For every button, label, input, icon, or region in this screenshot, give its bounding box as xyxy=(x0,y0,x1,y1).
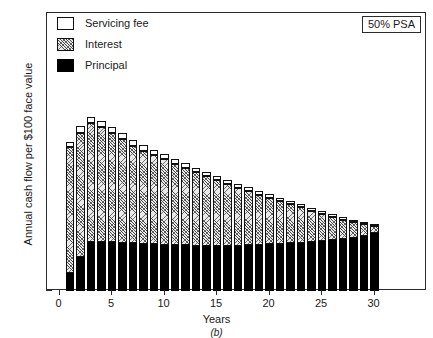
bar-segment-principal xyxy=(307,242,315,291)
bar-segment-interest xyxy=(244,191,252,245)
bar-segment-servicing-fee xyxy=(223,180,231,184)
bar-segment-servicing-fee xyxy=(360,222,368,224)
bar-segment-interest xyxy=(171,164,179,245)
bar-segment-interest xyxy=(318,214,326,242)
bar-segment-servicing-fee xyxy=(265,194,273,198)
x-tick-mark xyxy=(374,290,375,295)
bar-segment-interest xyxy=(213,180,221,246)
bar-segment-servicing-fee xyxy=(339,217,347,220)
bar-segment-servicing-fee xyxy=(297,204,305,207)
bar-segment-principal xyxy=(192,246,200,291)
bar-segment-interest xyxy=(139,151,147,244)
psa-annotation: 50% PSA xyxy=(362,16,421,33)
bar-segment-interest xyxy=(76,133,84,257)
bar-segment-servicing-fee xyxy=(192,168,200,173)
bar-segment-servicing-fee xyxy=(129,140,137,146)
x-tick-label: 30 xyxy=(361,297,387,309)
bar-segment-interest xyxy=(192,172,200,245)
bar-segment-servicing-fee xyxy=(276,198,284,201)
bar xyxy=(297,13,305,291)
bar-segment-principal xyxy=(108,242,116,291)
bar-segment-servicing-fee xyxy=(160,154,168,159)
bar-segment-servicing-fee xyxy=(286,201,294,204)
bar-segment-servicing-fee xyxy=(213,176,221,180)
x-tick-mark xyxy=(321,290,322,295)
bar-segment-interest xyxy=(276,201,284,244)
bar-segment-interest xyxy=(87,123,95,243)
bar-segment-interest xyxy=(328,217,336,241)
x-tick-label: 5 xyxy=(98,297,124,309)
bar-segment-principal xyxy=(265,244,273,291)
bar-segment-principal xyxy=(202,246,210,291)
swatch-empty-icon xyxy=(57,17,74,30)
bar-segment-principal xyxy=(76,257,84,291)
bar xyxy=(318,13,326,291)
bar-segment-interest xyxy=(118,139,126,243)
bar-segment-principal xyxy=(160,245,168,291)
bar-segment-principal xyxy=(234,246,242,291)
bar xyxy=(223,13,231,291)
bar xyxy=(360,13,368,291)
bar xyxy=(286,13,294,291)
bar-segment-servicing-fee xyxy=(108,127,116,133)
bar-segment-principal xyxy=(318,241,326,291)
bar xyxy=(307,13,315,291)
bar-segment-interest xyxy=(234,188,242,246)
bar xyxy=(339,13,347,291)
bar-segment-principal xyxy=(223,246,231,291)
bar xyxy=(276,13,284,291)
x-tick-label: 0 xyxy=(46,297,72,309)
x-axis-label: Years xyxy=(0,313,433,325)
bar-segment-servicing-fee xyxy=(66,142,74,148)
bar xyxy=(244,13,252,291)
bar-segment-interest xyxy=(297,207,305,242)
bar-segment-principal xyxy=(349,238,357,291)
y-axis-label: Annual cash flow per $100 face value xyxy=(22,34,34,274)
panel-label: (b) xyxy=(0,327,433,338)
x-tick-label: 15 xyxy=(203,297,229,309)
bar-segment-interest xyxy=(223,184,231,246)
swatch-solid-icon xyxy=(57,59,74,72)
x-tick-label: 10 xyxy=(151,297,177,309)
bar-segment-interest xyxy=(360,224,368,235)
x-tick-mark xyxy=(164,290,165,295)
swatch-hatched-icon xyxy=(57,38,74,51)
legend-item-servicing-fee: Servicing fee xyxy=(57,14,207,32)
bar-segment-interest xyxy=(129,146,137,243)
bar xyxy=(255,13,263,291)
bar-segment-principal xyxy=(118,243,126,291)
bar-segment-interest xyxy=(370,226,378,233)
figure: Annual cash flow per $100 face value 051… xyxy=(0,0,433,338)
bar-segment-interest xyxy=(255,195,263,245)
bar-segment-principal xyxy=(171,245,179,291)
bar-segment-servicing-fee xyxy=(307,208,315,211)
bar-segment-principal xyxy=(150,244,158,291)
bar-segment-interest xyxy=(265,198,273,244)
bar xyxy=(265,13,273,291)
bar-segment-servicing-fee xyxy=(76,126,84,132)
bar-segment-interest xyxy=(307,211,315,242)
legend-item-interest: Interest xyxy=(57,35,207,53)
bar-segment-principal xyxy=(181,245,189,291)
bar-segment-servicing-fee xyxy=(139,145,147,151)
bar-segment-servicing-fee xyxy=(150,150,158,155)
x-tick-mark xyxy=(216,290,217,295)
bar-segment-servicing-fee xyxy=(328,214,336,217)
bar-segment-interest xyxy=(181,168,189,245)
bar-segment-servicing-fee xyxy=(349,220,357,223)
bar-segment-interest xyxy=(160,159,168,244)
bar-segment-interest xyxy=(97,127,105,242)
bar-segment-interest xyxy=(339,220,347,240)
legend-label: Principal xyxy=(85,59,127,71)
bar-segment-servicing-fee xyxy=(244,187,252,191)
bar-segment-interest xyxy=(202,176,210,246)
bar-segment-principal xyxy=(276,244,284,291)
bar-segment-principal xyxy=(87,242,95,291)
x-tick-mark xyxy=(111,290,112,295)
bar-segment-servicing-fee xyxy=(181,163,189,168)
bar-segment-servicing-fee xyxy=(97,121,105,127)
bar-segment-principal xyxy=(370,233,378,291)
bar-segment-servicing-fee xyxy=(202,172,210,176)
bar-segment-servicing-fee xyxy=(171,159,179,164)
bar-segment-principal xyxy=(286,243,294,291)
